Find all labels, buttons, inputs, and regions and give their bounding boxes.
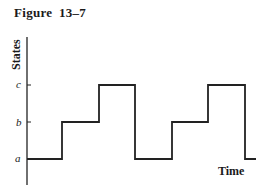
step-diagram: States c b a Time — [0, 0, 266, 194]
y-axis-label: States — [9, 39, 23, 70]
level-label-b: b — [16, 116, 22, 128]
x-axis-label: Time — [218, 164, 245, 178]
level-label-a: a — [15, 152, 21, 164]
level-label-c: c — [16, 78, 21, 90]
state-step-line — [27, 85, 256, 159]
